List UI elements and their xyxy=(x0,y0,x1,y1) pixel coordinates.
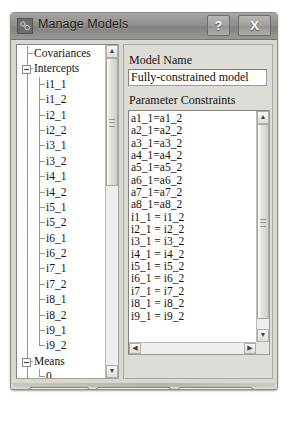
tree-item-label: 0 xyxy=(46,370,52,378)
model-name-label: Model Name xyxy=(129,53,192,68)
tree-scrollbar-thumb[interactable] xyxy=(106,58,118,186)
tree-item-i4-1[interactable]: i4_1 xyxy=(17,169,106,184)
collapse-box-icon[interactable] xyxy=(22,65,31,74)
scrollbar-corner xyxy=(256,342,269,354)
constraint-line: a3_1=a3_2 xyxy=(131,137,256,149)
tree-scroll-down-button[interactable]: ▼ xyxy=(106,365,118,378)
close-dialog-button[interactable]: Close xyxy=(178,387,253,390)
tree-item-label: i4_1 xyxy=(46,170,66,182)
scrollbar-grip-icon xyxy=(109,119,115,127)
dialog-client-area: CovariancesInterceptsi1_1i1_2i2_1i2_2i3_… xyxy=(11,40,277,389)
delete-model-button[interactable]: Delete xyxy=(96,387,171,390)
tree-item-label: Means xyxy=(34,355,65,367)
manage-models-icon xyxy=(17,18,33,34)
tree-item-means[interactable]: Means xyxy=(17,354,106,369)
help-button[interactable]: ? xyxy=(207,15,230,36)
window-title: Manage Models xyxy=(38,17,128,31)
tree-item-i3-1[interactable]: i3_1 xyxy=(17,138,106,153)
tree-item-label: i5_2 xyxy=(46,216,66,228)
constraint-line: i7_1 = i7_2 xyxy=(131,285,256,297)
constraint-line: i2_1 = i2_2 xyxy=(131,223,256,235)
tree-item-i9-1[interactable]: i9_1 xyxy=(17,323,106,338)
tree-item-i5-2[interactable]: i5_2 xyxy=(17,215,106,230)
constraint-line: i1_1 = i1_2 xyxy=(131,211,256,223)
tree-item-i1-2[interactable]: i1_2 xyxy=(17,92,106,107)
tree-item-label: i1_1 xyxy=(46,78,66,90)
tree-item-label: i8_2 xyxy=(46,309,66,321)
tree-item-label: i7_1 xyxy=(46,262,66,274)
tree-item-i1-1[interactable]: i1_1 xyxy=(17,77,106,92)
parameter-constraints-label: Parameter Constraints xyxy=(129,93,235,108)
constraint-line: a1_1=a1_2 xyxy=(131,112,256,124)
tree-item-i9-2[interactable]: i9_2 xyxy=(17,338,106,353)
tree-item-i7-1[interactable]: i7_1 xyxy=(17,261,106,276)
tree-item-label: i9_2 xyxy=(46,339,66,351)
tree-item-label: i9_1 xyxy=(46,324,66,336)
constraints-scroll-right-button[interactable]: ▶ xyxy=(244,343,256,354)
tree-item-i2-2[interactable]: i2_2 xyxy=(17,123,106,138)
tree-item-label: i8_1 xyxy=(46,293,66,305)
tree-item-i3-2[interactable]: i3_2 xyxy=(17,154,106,169)
constraint-line: i9_1 = i9_2 xyxy=(131,310,256,322)
parameter-tree[interactable]: CovariancesInterceptsi1_1i1_2i2_1i2_2i3_… xyxy=(17,45,106,378)
constraint-line: a5_1=a5_2 xyxy=(131,161,256,173)
tree-item-i5-1[interactable]: i5_1 xyxy=(17,200,106,215)
constraint-line: a8_1=a8_2 xyxy=(131,198,256,210)
tree-item-label: i3_2 xyxy=(46,155,66,167)
tree-item-label: i5_1 xyxy=(46,201,66,213)
constraint-line: i6_1 = i6_2 xyxy=(131,272,256,284)
constraints-vertical-scrollbar[interactable]: ▲ ▼ xyxy=(256,111,269,342)
scrollbar-grip-icon xyxy=(260,219,266,227)
tree-item-intercepts[interactable]: Intercepts xyxy=(17,61,106,76)
model-name-input[interactable] xyxy=(128,69,267,86)
constraints-text-content[interactable]: a1_1=a1_2a2_1=a2_2a3_1=a3_2a4_1=a4_2a5_1… xyxy=(129,111,256,354)
tree-item-label: i3_1 xyxy=(46,139,66,151)
tree-scroll-up-button[interactable]: ▲ xyxy=(106,45,118,58)
tree-item-label: i7_2 xyxy=(46,278,66,290)
tree-item-i6-1[interactable]: i6_1 xyxy=(17,231,106,246)
tree-item-0[interactable]: 0 xyxy=(17,369,106,378)
tree-item-label: Covariances xyxy=(34,47,91,59)
constraint-line: i5_1 = i5_2 xyxy=(131,260,256,272)
collapse-box-icon[interactable] xyxy=(22,358,31,367)
constraints-scroll-left-button[interactable]: ◀ xyxy=(129,343,141,354)
constraint-line: a6_1=a6_2 xyxy=(131,174,256,186)
tree-item-i8-1[interactable]: i8_1 xyxy=(17,292,106,307)
title-bar[interactable]: Manage Models ? X xyxy=(11,13,277,40)
tree-item-label: i4_2 xyxy=(46,186,66,198)
constraint-line: i4_1 = i4_2 xyxy=(131,248,256,260)
tree-item-label: i2_1 xyxy=(46,109,66,121)
tree-item-i7-2[interactable]: i7_2 xyxy=(17,277,106,292)
tree-item-i8-2[interactable]: i8_2 xyxy=(17,308,106,323)
model-details-panel: Model Name Parameter Constraints a1_1=a1… xyxy=(123,44,273,379)
tree-item-i2-1[interactable]: i2_1 xyxy=(17,108,106,123)
constraint-line: a4_1=a4_2 xyxy=(131,149,256,161)
constraints-vscrollbar-thumb[interactable] xyxy=(257,124,269,319)
constraints-scroll-down-button[interactable]: ▼ xyxy=(257,329,269,342)
constraint-line: i8_1 = i8_2 xyxy=(131,297,256,309)
tree-item-label: i6_1 xyxy=(46,232,66,244)
tree-item-label: i1_2 xyxy=(46,93,66,105)
close-window-button[interactable]: X xyxy=(238,15,271,36)
tree-item-label: Intercepts xyxy=(34,62,79,74)
tree-item-label: i6_2 xyxy=(46,247,66,259)
constraints-horizontal-scrollbar[interactable]: ◀ ▶ xyxy=(129,342,256,354)
tree-item-i6-2[interactable]: i6_2 xyxy=(17,246,106,261)
tree-item-i4-2[interactable]: i4_2 xyxy=(17,185,106,200)
parameter-constraints-textarea[interactable]: a1_1=a1_2a2_1=a2_2a3_1=a3_2a4_1=a4_2a5_1… xyxy=(128,110,270,355)
dialog-bottom-edge xyxy=(13,383,275,387)
constraints-scroll-up-button[interactable]: ▲ xyxy=(257,111,269,124)
constraint-line: a7_1=a7_2 xyxy=(131,186,256,198)
new-model-button[interactable]: New xyxy=(29,387,89,390)
tree-item-covariances[interactable]: Covariances xyxy=(17,46,106,61)
manage-models-dialog: Manage Models ? X CovariancesInterceptsi… xyxy=(10,12,278,390)
constraint-line: a2_1=a2_2 xyxy=(131,124,256,136)
constraint-line: i3_1 = i3_2 xyxy=(131,235,256,247)
tree-vertical-scrollbar[interactable]: ▲ ▼ xyxy=(105,45,118,378)
parameter-tree-panel[interactable]: CovariancesInterceptsi1_1i1_2i2_1i2_2i3_… xyxy=(16,44,119,379)
tree-item-label: i2_2 xyxy=(46,124,66,136)
